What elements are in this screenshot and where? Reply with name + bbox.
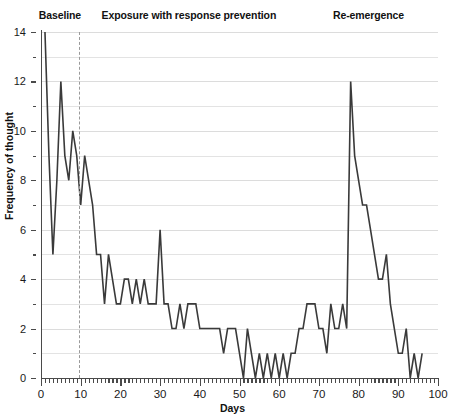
x-tick-mark	[319, 379, 320, 386]
x-tick-mark	[69, 379, 70, 383]
x-tick-mark	[307, 379, 308, 383]
x-tick-mark	[371, 379, 372, 383]
x-tick-mark	[144, 379, 145, 383]
x-tick-mark	[363, 379, 364, 383]
series-line	[41, 32, 438, 378]
x-tick-mark	[359, 379, 360, 386]
x-tick-mark	[61, 379, 62, 383]
x-tick-mark	[65, 379, 66, 383]
y-tick-mark	[33, 106, 36, 107]
phase-label-exposure: Exposure with response prevention	[102, 9, 277, 21]
x-axis-tick-marks	[41, 379, 439, 388]
x-tick-mark	[315, 379, 316, 383]
y-tick-mark	[33, 304, 36, 305]
plot-area	[41, 32, 438, 378]
x-tick-label: 50	[233, 388, 246, 400]
x-tick-mark	[132, 379, 133, 383]
x-tick-mark	[204, 379, 205, 383]
x-tick-mark	[160, 379, 161, 386]
x-tick-mark	[152, 379, 153, 383]
x-axis-title: Days	[0, 402, 465, 414]
x-tick-mark	[41, 379, 42, 386]
x-tick-mark	[220, 379, 221, 383]
x-tick-mark	[367, 379, 368, 383]
x-tick-mark	[259, 379, 260, 383]
y-axis-title: Frequency of thought	[3, 76, 15, 256]
x-tick-label: 70	[312, 388, 325, 400]
x-tick-mark	[164, 379, 165, 383]
y-tick-label: 2	[20, 323, 26, 335]
x-tick-mark	[438, 379, 439, 386]
x-tick-mark	[97, 379, 98, 383]
x-tick-label: 80	[352, 388, 365, 400]
y-tick-mark	[31, 279, 36, 280]
x-tick-label: 90	[392, 388, 405, 400]
x-tick-mark	[180, 379, 181, 383]
x-tick-mark	[73, 379, 74, 383]
x-tick-mark	[382, 379, 383, 383]
x-tick-mark	[188, 379, 189, 383]
y-tick-label: 10	[14, 125, 26, 137]
x-tick-mark	[287, 379, 288, 383]
x-tick-mark	[176, 379, 177, 383]
y-tick-mark	[33, 57, 36, 58]
x-tick-mark	[378, 379, 379, 383]
x-tick-mark	[255, 379, 256, 383]
phase-label-reemergence: Re-emergence	[333, 9, 404, 21]
x-tick-mark	[243, 379, 244, 383]
y-tick-mark	[33, 254, 36, 255]
x-tick-mark	[112, 379, 113, 383]
x-tick-mark	[327, 379, 328, 383]
x-tick-mark	[247, 379, 248, 383]
x-tick-mark	[85, 379, 86, 383]
y-tick-mark	[31, 180, 36, 181]
x-tick-mark	[426, 379, 427, 383]
x-tick-mark	[414, 379, 415, 383]
x-tick-mark	[267, 379, 268, 383]
x-tick-mark	[303, 379, 304, 383]
x-tick-mark	[136, 379, 137, 383]
x-tick-label: 0	[38, 388, 44, 400]
x-tick-mark	[105, 379, 106, 383]
x-tick-mark	[120, 379, 121, 386]
y-tick-mark	[31, 230, 36, 231]
x-tick-mark	[339, 379, 340, 383]
chart-root: Baseline Exposure with response preventi…	[0, 0, 465, 419]
x-tick-mark	[311, 379, 312, 383]
y-axis-line	[41, 30, 42, 380]
x-tick-mark	[291, 379, 292, 383]
x-tick-mark	[386, 379, 387, 383]
y-tick-mark	[31, 378, 36, 379]
x-tick-mark	[402, 379, 403, 383]
y-tick-label: 12	[14, 75, 26, 87]
x-tick-label: 30	[154, 388, 167, 400]
x-tick-mark	[200, 379, 201, 386]
x-tick-mark	[212, 379, 213, 383]
x-tick-mark	[347, 379, 348, 383]
phase-label-baseline: Baseline	[39, 9, 81, 21]
y-tick-label: 14	[14, 26, 26, 38]
x-tick-mark	[196, 379, 197, 383]
y-tick-mark	[31, 329, 36, 330]
x-tick-mark	[216, 379, 217, 383]
y-tick-label: 0	[20, 372, 26, 384]
x-tick-mark	[156, 379, 157, 383]
x-tick-mark	[398, 379, 399, 386]
x-tick-mark	[283, 379, 284, 383]
x-tick-mark	[343, 379, 344, 383]
x-tick-mark	[355, 379, 356, 383]
x-tick-mark	[89, 379, 90, 383]
x-tick-mark	[172, 379, 173, 383]
y-tick-label: 6	[20, 224, 26, 236]
x-tick-mark	[374, 379, 375, 383]
x-tick-mark	[394, 379, 395, 383]
x-tick-mark	[224, 379, 225, 383]
x-tick-mark	[434, 379, 435, 383]
y-tick-mark	[31, 32, 36, 33]
x-tick-mark	[271, 379, 272, 383]
x-tick-mark	[410, 379, 411, 383]
x-tick-mark	[49, 379, 50, 383]
y-tick-mark	[31, 131, 36, 132]
y-tick-mark	[31, 81, 36, 82]
x-tick-mark	[323, 379, 324, 383]
